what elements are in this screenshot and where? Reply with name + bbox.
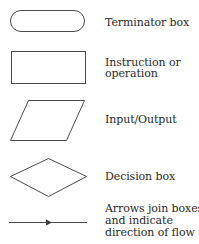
flow-arrow-symbol bbox=[9, 220, 87, 226]
terminator-symbol bbox=[11, 11, 85, 32]
terminator-label: Terminator box bbox=[105, 17, 189, 28]
input-output-symbol bbox=[11, 101, 85, 141]
input-output-label: Input/Output bbox=[105, 114, 177, 125]
arrow-label-line1: Arrows join boxes bbox=[105, 203, 199, 214]
decision-label: Decision box bbox=[105, 171, 175, 182]
arrow-label-line2: and indicate bbox=[105, 215, 173, 226]
arrowhead-icon bbox=[46, 220, 52, 226]
arrow-label-line3: direction of flow bbox=[105, 227, 195, 238]
instruction-symbol bbox=[12, 52, 86, 84]
instruction-label-line2: operation bbox=[105, 68, 158, 79]
decision-symbol bbox=[11, 159, 87, 197]
